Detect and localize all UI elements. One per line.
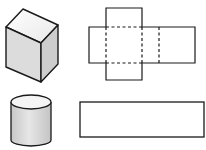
cylinder-top [11, 95, 51, 109]
diagram-svg [0, 0, 206, 150]
diagram-canvas [0, 0, 206, 150]
cuboid-solid [6, 9, 58, 82]
cuboid-net [89, 8, 195, 80]
cylinder-solid [11, 95, 51, 146]
fold-lines [106, 27, 159, 63]
cylinder-lateral-rectangle [80, 102, 204, 137]
